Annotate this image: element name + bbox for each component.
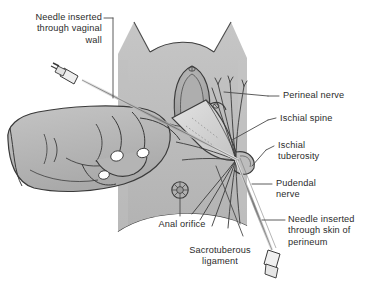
label-sacrotuberous-ligament: Sacrotuberous ligament xyxy=(174,245,266,268)
label-ischial-spine: Ischial spine xyxy=(280,113,364,124)
label-anal-orifice: Anal orifice xyxy=(140,219,224,230)
syringe-hub-perineal xyxy=(264,250,280,278)
leader-ischial-tuberosity-dash xyxy=(266,146,274,150)
leader-ischial-spine-dash xyxy=(268,118,276,120)
anal-orifice xyxy=(172,182,188,198)
label-perineal-nerve: Perineal nerve xyxy=(283,90,367,101)
label-needle-inserted-perineum: Needle inserted through skin of perineum xyxy=(288,214,368,248)
pudendal-nerve-block-figure: Needle inserted through vaginal wall Per… xyxy=(0,0,369,291)
label-pudendal-nerve: Pudendal nerve xyxy=(276,178,356,201)
label-needle-inserted-vaginal-wall: Needle inserted through vaginal wall xyxy=(16,12,102,46)
syringe-hub-vaginal xyxy=(51,63,78,84)
label-ischial-tuberosity: Ischial tuberosity xyxy=(278,140,358,163)
